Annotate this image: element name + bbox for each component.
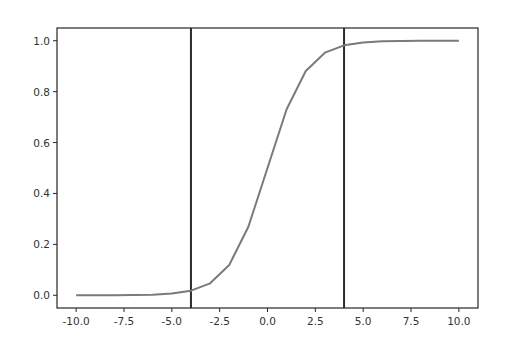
y-axis: 0.00.20.40.60.81.0 bbox=[33, 35, 57, 302]
x-tick-label: -2.5 bbox=[209, 315, 230, 327]
x-axis: -10.0-7.5-5.0-2.50.02.55.07.510.0 bbox=[63, 308, 471, 327]
y-tick-label: 0.0 bbox=[33, 289, 50, 301]
x-tick-label: 2.5 bbox=[307, 315, 324, 327]
x-tick-label: 7.5 bbox=[403, 315, 420, 327]
x-tick-label: 10.0 bbox=[447, 315, 470, 327]
y-tick-label: 0.2 bbox=[33, 238, 50, 250]
y-tick-label: 1.0 bbox=[33, 35, 50, 47]
sigmoid-line-chart: -10.0-7.5-5.0-2.50.02.55.07.510.0 0.00.2… bbox=[0, 0, 507, 353]
x-tick-label: 5.0 bbox=[355, 315, 372, 327]
y-tick-label: 0.6 bbox=[33, 137, 50, 149]
sigmoid-curve bbox=[76, 41, 459, 296]
y-tick-label: 0.8 bbox=[33, 86, 50, 98]
y-tick-label: 0.4 bbox=[33, 187, 50, 199]
x-tick-label: 0.0 bbox=[259, 315, 276, 327]
chart: -10.0-7.5-5.0-2.50.02.55.07.510.0 0.00.2… bbox=[0, 0, 507, 353]
x-tick-label: -7.5 bbox=[114, 315, 135, 327]
x-tick-label: -5.0 bbox=[162, 315, 183, 327]
x-tick-label: -10.0 bbox=[63, 315, 90, 327]
